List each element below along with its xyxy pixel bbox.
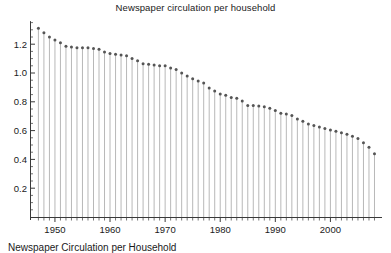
data-point [125,54,128,57]
data-point [120,54,123,57]
data-point [42,31,45,34]
data-point [180,72,183,75]
data-point [274,109,277,112]
x-tick-label: 1980 [210,224,231,235]
data-point [64,45,67,48]
data-point [70,46,73,49]
data-point [208,87,211,90]
data-point [147,63,150,66]
y-tick-label: 0.4 [14,154,27,165]
data-point [296,118,299,121]
y-axis-tick-labels: 0.20.40.60.81.01.2 [14,39,27,194]
data-point [175,68,178,71]
data-point [98,48,101,51]
data-point [362,141,365,144]
data-point [268,107,271,110]
y-tick-label: 1.2 [14,39,27,50]
data-point [103,51,106,54]
figure-caption: Newspaper Circulation per Household [8,242,391,253]
data-point [136,59,139,62]
data-point [307,123,310,126]
data-point [318,126,321,129]
data-point [329,128,332,131]
data-point [323,127,326,130]
data-point [81,46,84,49]
y-tick-label: 0.8 [14,96,27,107]
data-point [109,52,112,55]
data-point [86,46,89,49]
data-point [230,96,233,99]
data-point [213,90,216,93]
data-point [241,100,244,103]
data-point [345,133,348,136]
data-point [219,92,222,95]
x-tick-label: 2000 [320,224,341,235]
data-point [158,64,161,67]
data-point [285,113,288,116]
data-point [37,27,40,30]
data-point [235,97,238,100]
data-point [334,130,337,133]
data-point [312,124,315,127]
data-point [367,146,370,149]
data-point [191,77,194,80]
data-point [263,105,266,108]
stem-series [38,28,374,217]
x-axis-tick-labels: 195019601970198019902000 [44,224,341,235]
data-point [164,64,167,67]
data-point [252,104,255,107]
y-tick-label: 1.0 [14,67,27,78]
x-tick-label: 1970 [155,224,176,235]
y-tick-label: 0.2 [14,183,27,194]
data-point [257,105,260,108]
data-point [75,46,78,49]
data-point [340,131,343,134]
x-axis [31,218,383,223]
data-point [197,79,200,82]
data-point [114,53,117,56]
data-point [48,36,51,39]
data-point [186,74,189,77]
data-point [169,66,172,69]
data-point [246,104,249,107]
x-tick-label: 1950 [44,224,65,235]
x-tick-label: 1960 [99,224,120,235]
data-point [202,82,205,85]
y-tick-label: 0.6 [14,125,27,136]
data-point [224,94,227,97]
data-point [290,114,293,117]
data-point [131,57,134,60]
data-point [153,64,156,67]
data-point [53,38,56,41]
data-point [373,152,376,155]
data-point [92,47,95,50]
data-point [301,120,304,123]
y-axis [31,21,36,220]
data-point [59,41,62,44]
data-point [351,135,354,138]
data-point [142,62,145,65]
data-point [356,137,359,140]
data-point [279,112,282,115]
x-tick-label: 1990 [265,224,286,235]
